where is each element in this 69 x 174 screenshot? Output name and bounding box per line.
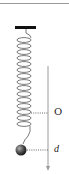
spring-coils bbox=[17, 38, 31, 127]
ball-mass bbox=[16, 145, 27, 156]
spring-bottom-hook bbox=[23, 126, 30, 144]
spring-top-hook bbox=[26, 29, 31, 38]
displacement-label: d bbox=[54, 144, 59, 154]
ceiling-bar bbox=[15, 26, 36, 29]
axis-arrow-icon bbox=[46, 166, 50, 171]
equilibrium-label: O bbox=[54, 107, 62, 117]
